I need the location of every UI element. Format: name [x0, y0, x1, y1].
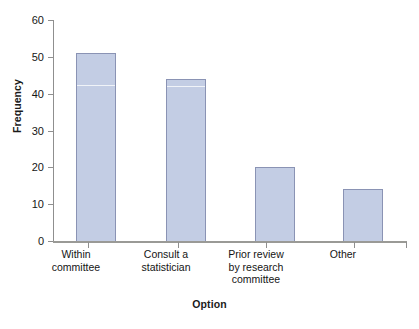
scan-artifact-line [167, 86, 205, 87]
x-category-label-3-line-0: Other [303, 248, 383, 261]
x-category-label-2: Prior review by research committee [213, 248, 299, 286]
x-category-label-2-line-1: by research [213, 261, 299, 274]
bar-consult-a-statistician [166, 79, 206, 241]
bar-other [343, 189, 383, 241]
x-axis-title: Option [0, 298, 419, 310]
x-category-label-1-line-0: Consult a [126, 248, 206, 261]
y-tick-40: 40 [48, 94, 53, 95]
x-category-label-0-line-1: committee [36, 261, 116, 274]
y-tick-label-30: 30 [32, 125, 44, 137]
y-tick-30: 30 [48, 131, 53, 132]
x-category-label-0: Within committee [36, 248, 116, 273]
x-category-label-1: Consult a statistician [126, 248, 206, 273]
y-tick-label-10: 10 [32, 198, 44, 210]
bar-within-committee [76, 53, 116, 241]
y-tick-60: 60 [48, 20, 53, 21]
y-tick-label-50: 50 [32, 51, 44, 63]
y-tick-label-60: 60 [32, 14, 44, 26]
y-tick-label-0: 0 [38, 235, 44, 247]
y-tick-label-20: 20 [32, 161, 44, 173]
y-tick-label-40: 40 [32, 88, 44, 100]
y-tick-50: 50 [48, 57, 53, 58]
y-axis-title: Frequency [11, 61, 23, 151]
x-category-label-0-line-0: Within [36, 248, 116, 261]
y-axis-line [53, 20, 54, 241]
bar-chart: Frequency 0 10 20 30 40 50 60 [0, 0, 419, 329]
x-category-label-1-line-1: statistician [126, 261, 206, 274]
plot-area: 0 10 20 30 40 50 60 [53, 20, 407, 241]
x-separator-tick [406, 242, 407, 248]
y-tick-10: 10 [48, 204, 53, 205]
x-category-label-2-line-0: Prior review [213, 248, 299, 261]
bar-prior-review-by-research-committee [255, 167, 295, 241]
y-tick-0: 0 [48, 241, 53, 242]
x-category-label-3: Other [303, 248, 383, 261]
x-category-label-2-line-2: committee [213, 273, 299, 286]
y-tick-20: 20 [48, 167, 53, 168]
scan-artifact-line [77, 85, 115, 86]
